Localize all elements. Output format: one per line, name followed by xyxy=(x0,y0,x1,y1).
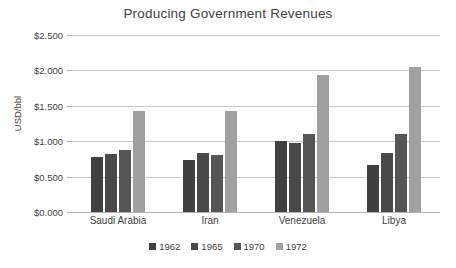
y-axis-tick-label: $2.500 xyxy=(34,30,63,41)
bar xyxy=(289,143,301,212)
bar-group xyxy=(164,35,256,212)
y-axis-title: USD/bbl xyxy=(12,74,23,154)
legend-swatch-icon xyxy=(234,243,241,250)
legend-label: 1972 xyxy=(286,241,307,252)
bar xyxy=(183,160,195,212)
bar xyxy=(105,154,117,212)
gridline xyxy=(72,212,440,213)
bar xyxy=(303,134,315,212)
chart-container: Producing Government Revenues USD/bbl $0… xyxy=(0,0,456,268)
legend-swatch-icon xyxy=(191,243,198,250)
bar xyxy=(409,67,421,212)
legend-swatch-icon xyxy=(149,243,156,250)
bar xyxy=(91,157,103,212)
bar xyxy=(197,153,209,212)
y-axis-tick xyxy=(67,212,72,213)
legend-item[interactable]: 1962 xyxy=(149,241,180,252)
x-axis-category-label: Libya xyxy=(348,215,440,226)
plot-area: $0.000$0.500$1.000$1.500$2.000$2.500 xyxy=(72,35,440,212)
x-axis-category-label: Venezuela xyxy=(256,215,348,226)
bar xyxy=(211,155,223,212)
y-axis-tick-label: $2.000 xyxy=(34,65,63,76)
bar xyxy=(133,111,145,212)
legend-item[interactable]: 1972 xyxy=(276,241,307,252)
bar xyxy=(395,134,407,212)
y-axis-tick-label: $1.500 xyxy=(34,100,63,111)
chart-title: Producing Government Revenues xyxy=(0,6,456,21)
bar-group xyxy=(256,35,348,212)
bar-group xyxy=(72,35,164,212)
y-axis-tick-label: $1.000 xyxy=(34,136,63,147)
bars-layer xyxy=(72,35,440,212)
bar xyxy=(275,141,287,212)
legend-label: 1962 xyxy=(159,241,180,252)
bar xyxy=(317,75,329,212)
bar xyxy=(225,111,237,212)
y-axis-tick-label: $0.500 xyxy=(34,171,63,182)
x-axis-category-label: Saudi Arabia xyxy=(72,215,164,226)
x-axis-category-label: Iran xyxy=(164,215,256,226)
legend-label: 1965 xyxy=(201,241,222,252)
legend-item[interactable]: 1965 xyxy=(191,241,222,252)
legend-swatch-icon xyxy=(276,243,283,250)
legend-item[interactable]: 1970 xyxy=(234,241,265,252)
chart-legend: 1962196519701972 xyxy=(0,241,456,252)
x-axis-category-labels: Saudi ArabiaIranVenezuelaLibya xyxy=(72,215,440,231)
y-axis-tick-label: $0.000 xyxy=(34,207,63,218)
legend-label: 1970 xyxy=(244,241,265,252)
bar-group xyxy=(348,35,440,212)
bar xyxy=(367,165,379,212)
bar xyxy=(381,153,393,212)
bar xyxy=(119,150,131,212)
